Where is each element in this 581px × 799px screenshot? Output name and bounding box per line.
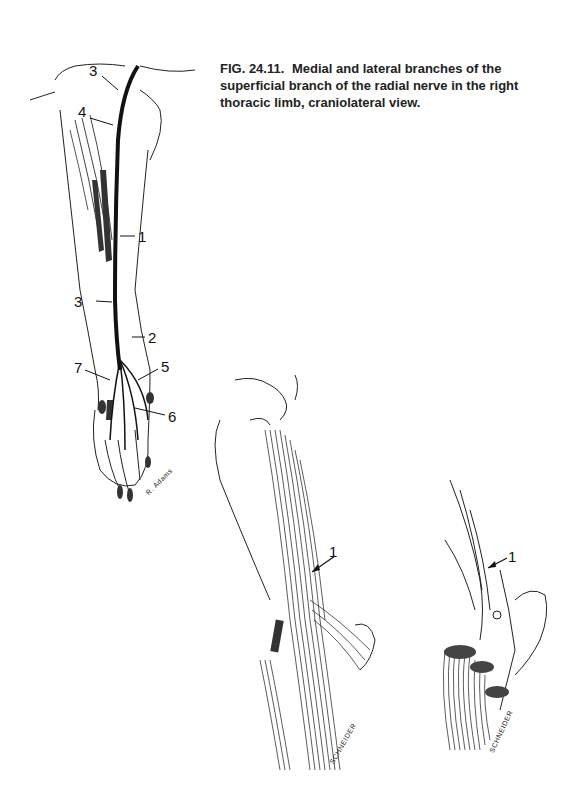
label-2: 2 <box>148 329 156 346</box>
limb-illustration: 3 4 1 3 2 7 5 6 R. Adams <box>0 0 230 510</box>
label-1-elbow-b: 1 <box>508 548 516 565</box>
limb-drawing <box>0 0 230 510</box>
label-6: 6 <box>168 408 176 425</box>
elbow-b-drawing <box>400 470 581 770</box>
figure-caption: FIG. 24.11. Medial and lateral branches … <box>220 60 550 111</box>
elbow-a-drawing <box>200 360 410 790</box>
label-1-elbow-a: 1 <box>329 543 337 560</box>
label-5: 5 <box>161 358 169 375</box>
label-1: 1 <box>138 228 146 245</box>
label-4: 4 <box>78 103 86 120</box>
label-3-top: 3 <box>89 62 97 79</box>
label-7: 7 <box>74 359 82 376</box>
elbow-illustration-a: 1 SCHNEIDER <box>200 360 410 790</box>
label-3-bottom: 3 <box>74 293 82 310</box>
elbow-illustration-b: 1 SCHNEIDER <box>400 470 581 770</box>
